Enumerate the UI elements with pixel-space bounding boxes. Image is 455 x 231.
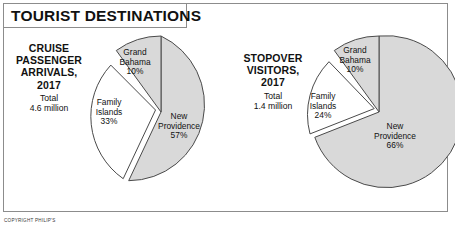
pie-label-family-islands-stopover: Family Islands 24% xyxy=(300,92,346,121)
caption-title-line: ARRIVALS, xyxy=(6,66,92,78)
caption-total-value: 4.6 million xyxy=(6,103,92,113)
caption-title-line: STOPOVER xyxy=(231,52,315,64)
pie-label-new-providence-cruise: New Providence 57% xyxy=(148,112,210,141)
pie-label-grand-bahama-stopover: Grand Bahama 10% xyxy=(330,46,380,75)
caption-title-line: VISITORS, xyxy=(231,64,315,76)
label-percent: 66% xyxy=(364,141,426,151)
pie-label-family-islands-cruise: Family Islands 33% xyxy=(86,98,132,127)
label-percent: 57% xyxy=(148,131,210,141)
pie-label-new-providence-stopover: New Providence 66% xyxy=(364,122,426,151)
caption-title-line: CRUISE xyxy=(6,42,92,54)
title-box: TOURIST DESTINATIONS xyxy=(3,3,187,28)
page-title: TOURIST DESTINATIONS xyxy=(4,7,201,25)
label-percent: 10% xyxy=(330,65,380,75)
caption-title-line: 2017 xyxy=(6,79,92,91)
label-percent: 10% xyxy=(110,67,160,77)
caption-title-cruise: CRUISE PASSENGER ARRIVALS, 2017 xyxy=(6,42,92,91)
copyright-notice: COPYRIGHT PHILIP'S xyxy=(4,218,56,223)
caption-total-label: Total xyxy=(6,93,92,103)
caption-subtitle-cruise: Total 4.6 million xyxy=(6,93,92,114)
label-percent: 24% xyxy=(300,111,346,121)
label-percent: 33% xyxy=(86,117,132,127)
chart-caption-cruise: CRUISE PASSENGER ARRIVALS, 2017 Total 4.… xyxy=(6,42,92,114)
caption-title-line: PASSENGER xyxy=(6,54,92,66)
caption-title-line: 2017 xyxy=(231,76,315,88)
pie-label-grand-bahama-cruise: Grand Bahama 10% xyxy=(110,48,160,77)
caption-title-stopover: STOPOVER VISITORS, 2017 xyxy=(231,52,315,89)
infographic-root: TOURIST DESTINATIONS CRUISE PASSENGER AR… xyxy=(0,0,455,231)
